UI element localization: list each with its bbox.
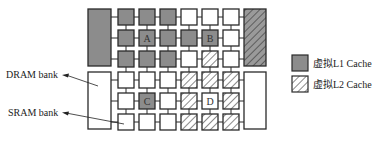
sram-bank-cell: [160, 30, 176, 46]
legend-l1-label: 虚拟L1 Cache: [313, 57, 372, 69]
sram-bank-cell: [160, 9, 176, 25]
sram-bank-cell: [118, 93, 134, 109]
sram-bank-cell: [160, 51, 176, 67]
sram-bank-cell: [118, 114, 134, 130]
sram-bank-cell: [223, 114, 239, 130]
sram-bank-cell: [160, 72, 176, 88]
sram-bank-cell: [181, 114, 197, 130]
dram-bank-left-bottom: [88, 72, 111, 129]
legend-l1-swatch-icon: [292, 55, 308, 71]
sram-bank-cell: [118, 72, 134, 88]
sram-bank-cell: [139, 72, 155, 88]
dram-bank-label: DRAM bank: [6, 69, 58, 80]
legend-l2-swatch-icon: [292, 76, 308, 92]
sram-bank-cell: [181, 9, 197, 25]
sram-arrowhead-icon: [62, 112, 69, 116]
legend: 虚拟L1 Cache 虚拟L2 Cache: [292, 55, 372, 92]
dram-bank-right-top: [244, 9, 266, 66]
sram-bank-cell: [223, 72, 239, 88]
legend-l2-label: 虚拟L2 Cache: [313, 78, 372, 90]
sram-bank-cell: [181, 51, 197, 67]
cell-marker-c: C: [144, 96, 151, 107]
sram-bank-cell: [139, 51, 155, 67]
sram-bank-cell: [118, 30, 134, 46]
sram-bank-cell: [181, 30, 197, 46]
sram-bank-cell: [181, 72, 197, 88]
cell-marker-b: B: [207, 33, 214, 44]
sram-bank-cell: [139, 9, 155, 25]
dram-bank-callout: DRAM bank: [6, 69, 98, 86]
sram-bank-cell: [223, 9, 239, 25]
sram-bank-cell: [118, 51, 134, 67]
sram-bank-cell: [202, 72, 218, 88]
sram-bank-cell: [223, 30, 239, 46]
cell-marker-a: A: [143, 33, 151, 44]
sram-bank-cell: [223, 93, 239, 109]
sram-bank-grid: ABCD: [118, 9, 239, 130]
dram-arrowhead-icon: [62, 74, 69, 78]
dram-bank-right-bottom: [244, 72, 266, 129]
sram-bank-label: SRAM bank: [8, 107, 58, 118]
sram-bank-cell: [223, 51, 239, 67]
dram-banks: [88, 9, 266, 129]
sram-bank-cell: [118, 9, 134, 25]
sram-bank-cell: [139, 114, 155, 130]
sram-bank-cell: [202, 51, 218, 67]
sram-bank-cell: [160, 93, 176, 109]
dram-bank-left-top: [88, 9, 111, 66]
sram-bank-cell: [160, 114, 176, 130]
sram-bank-cell: [202, 9, 218, 25]
sram-bank-cell: [181, 93, 197, 109]
cache-bank-diagram: ABCD DRAM bank SRAM bank 虚拟L1 Cache 虚拟L2…: [0, 0, 376, 142]
cell-marker-d: D: [206, 96, 213, 107]
sram-bank-cell: [202, 114, 218, 130]
